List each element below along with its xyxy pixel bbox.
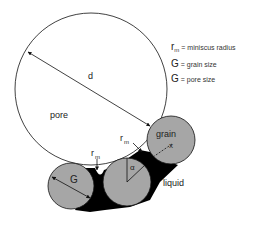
- grain-right: [147, 116, 195, 164]
- liquid-label: liquid: [163, 178, 184, 188]
- svg-text:m: m: [95, 154, 100, 160]
- grain-left: [48, 163, 94, 209]
- pore-grain-diagram: d pore grain x liquid G α r m r m: [0, 0, 260, 227]
- legend-item-pore-size: G = pore size: [171, 72, 236, 87]
- legend: rm = miniscus radius G = grain size G = …: [171, 40, 236, 87]
- grain-label: grain: [156, 129, 176, 139]
- svg-text:r: r: [91, 148, 94, 158]
- grain-size-label: G: [70, 174, 78, 185]
- diameter-label: d: [88, 71, 93, 81]
- pore-circle: [15, 13, 167, 165]
- svg-text:m: m: [124, 139, 129, 145]
- legend-item-meniscus: rm = miniscus radius: [171, 40, 236, 57]
- legend-item-grain-size: G = grain size: [171, 57, 236, 72]
- center-mark: x: [169, 141, 173, 150]
- svg-text:r: r: [120, 133, 123, 143]
- angle-label: α: [130, 163, 135, 172]
- pore-label: pore: [50, 110, 68, 120]
